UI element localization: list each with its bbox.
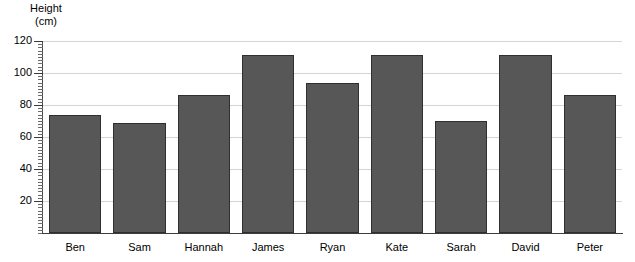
x-tick-label: David xyxy=(493,240,557,254)
y-tick-label: 120 xyxy=(2,35,32,46)
x-tick-label: Hannah xyxy=(172,240,236,254)
y-tick-major xyxy=(34,169,43,170)
bar xyxy=(564,95,616,233)
x-tick-label: Peter xyxy=(558,240,622,254)
bars-container xyxy=(43,41,622,233)
bar xyxy=(371,55,423,233)
bar xyxy=(435,121,487,233)
bar-chart: Height (cm) 20406080100120 BenSamHannahJ… xyxy=(0,0,635,262)
y-tick-label: 40 xyxy=(2,163,32,174)
y-tick-label: 80 xyxy=(2,99,32,110)
x-axis-line xyxy=(42,233,623,234)
y-tick-major xyxy=(34,201,43,202)
x-tick-label: Ryan xyxy=(300,240,364,254)
y-tick-major xyxy=(34,73,43,74)
x-axis-labels: BenSamHannahJamesRyanKateSarahDavidPeter xyxy=(43,240,622,258)
bar xyxy=(306,83,358,233)
bar xyxy=(49,115,101,233)
bar xyxy=(242,55,294,233)
bar xyxy=(113,123,165,233)
y-tick-label: 60 xyxy=(2,131,32,142)
x-tick-label: James xyxy=(236,240,300,254)
y-tick-major xyxy=(34,105,43,106)
y-tick-major xyxy=(34,41,43,42)
x-tick-label: Sarah xyxy=(429,240,493,254)
y-tick-major xyxy=(34,137,43,138)
y-axis-labels: 20406080100120 xyxy=(0,0,32,262)
bar xyxy=(499,55,551,233)
x-tick-label: Ben xyxy=(43,240,107,254)
bar xyxy=(178,95,230,233)
x-tick-label: Sam xyxy=(107,240,171,254)
y-tick-label: 100 xyxy=(2,67,32,78)
x-tick-label: Kate xyxy=(365,240,429,254)
y-tick-label: 20 xyxy=(2,195,32,206)
